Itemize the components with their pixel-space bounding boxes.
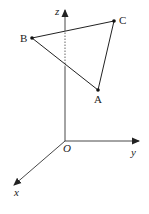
label-y-axis: y — [130, 146, 136, 158]
label-x-axis: x — [13, 186, 19, 198]
edge-ca — [98, 21, 114, 90]
point-b — [30, 36, 34, 40]
x-axis — [14, 141, 65, 185]
label-origin: O — [63, 142, 71, 154]
label-a: A — [94, 93, 102, 105]
label-z-axis: z — [54, 5, 60, 17]
edge-bc — [32, 21, 114, 38]
label-b: B — [20, 32, 27, 44]
label-c: C — [119, 14, 126, 26]
point-c — [112, 19, 116, 23]
diagram-canvas: B C A z O y x — [0, 0, 149, 214]
triangle-abc — [32, 21, 114, 90]
point-a — [96, 88, 100, 92]
